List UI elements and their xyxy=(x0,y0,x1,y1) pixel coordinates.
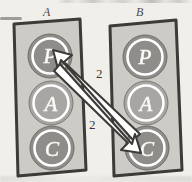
panel-a-node-c-label: C xyxy=(45,137,60,161)
panel-b-node-p-label: P xyxy=(138,45,152,69)
arrow-label-bottom: 2 xyxy=(89,117,96,133)
panel-b-node-a: A xyxy=(124,81,168,125)
panel-b-node-a-label: A xyxy=(138,92,153,116)
diagram-svg: P A C xyxy=(0,0,192,182)
panel-b-caption: B xyxy=(136,5,144,20)
panel-a-caption: A xyxy=(43,5,51,20)
panel-a-node-c: C xyxy=(30,126,74,170)
arrow-label-top: 2 xyxy=(96,66,103,82)
figure-canvas: P A C xyxy=(0,0,192,182)
panel-b-node-c-label: C xyxy=(140,137,155,161)
panel-a: P A C xyxy=(14,19,86,176)
panel-b: P A C xyxy=(110,20,182,176)
panel-b-node-p: P xyxy=(123,35,167,79)
panel-a-node-a: A xyxy=(29,81,73,125)
panel-a-node-a-label: A xyxy=(43,92,58,116)
